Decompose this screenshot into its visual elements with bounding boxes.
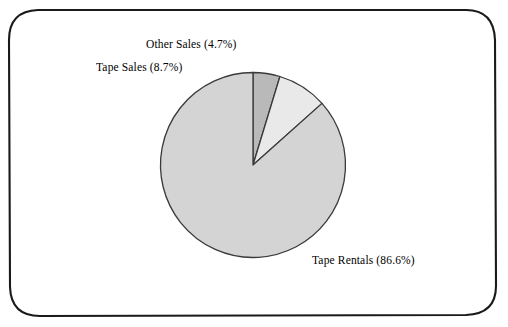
- pie-label-other-sales: Other Sales (4.7%): [146, 38, 237, 51]
- chart-canvas: Other Sales (4.7%) Tape Sales (8.7%) Tap…: [0, 0, 508, 327]
- pie-chart: [0, 0, 508, 327]
- pie-label-tape-rentals: Tape Rentals (86.6%): [312, 254, 415, 267]
- pie-label-tape-sales: Tape Sales (8.7%): [96, 61, 182, 74]
- pie-slices: [161, 73, 346, 258]
